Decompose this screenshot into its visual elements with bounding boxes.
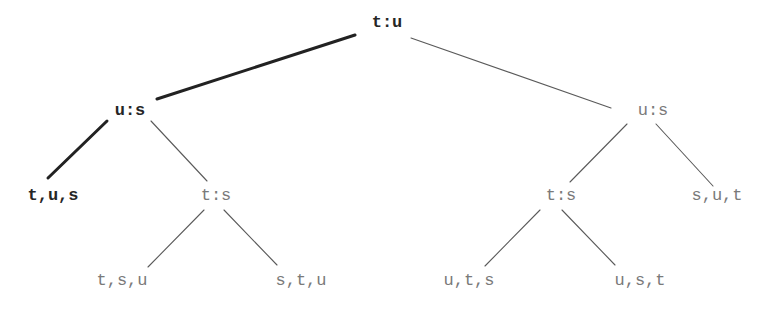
node-left-right: t:s bbox=[201, 187, 232, 204]
node-root: t:u bbox=[372, 14, 403, 31]
edge-r-rr bbox=[656, 124, 713, 186]
leaf-right-right: s,u,t bbox=[691, 187, 742, 204]
edge-l-ll bbox=[48, 121, 107, 178]
edge-rl-rlr bbox=[562, 210, 615, 265]
leaf-left-right-left: t,s,u bbox=[96, 272, 147, 289]
edge-root-r bbox=[411, 38, 611, 108]
leaf-right-left-left: u,t,s bbox=[443, 272, 494, 289]
node-right: u:s bbox=[638, 102, 669, 119]
edge-rl-rll bbox=[485, 210, 540, 266]
tree-edges bbox=[0, 0, 781, 311]
leaf-left-left: t,u,s bbox=[27, 187, 78, 204]
edge-root-l bbox=[157, 35, 355, 99]
edge-lr-lrl bbox=[148, 210, 204, 267]
tree-diagram: t:u u:s u:s t,u,s t:s t:s s,u,t t,s,u s,… bbox=[0, 0, 781, 311]
node-left: u:s bbox=[115, 102, 146, 119]
edge-lr-lrr bbox=[224, 210, 277, 265]
leaf-right-left-right: u,s,t bbox=[614, 272, 665, 289]
leaf-left-right-right: s,t,u bbox=[275, 272, 326, 289]
edge-r-rl bbox=[570, 124, 627, 182]
edge-l-lr bbox=[151, 121, 207, 181]
node-right-left: t:s bbox=[546, 187, 577, 204]
